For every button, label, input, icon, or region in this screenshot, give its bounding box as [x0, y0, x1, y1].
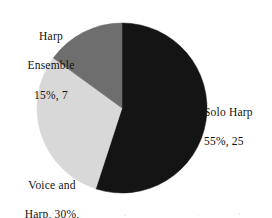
pie-label-voice-and-harp-line1: Voice and [6, 178, 98, 193]
pie-label-solo-harp-line2: 55%, 25 [204, 134, 272, 149]
scan-speckle-artifact [0, 210, 272, 218]
pie-label-harp-ensemble-line3: 15%, 7 [8, 88, 94, 103]
pie-label-solo-harp-line1: Solo Harp [204, 105, 272, 120]
pie-label-harp-ensemble-line2: Ensemble [8, 58, 94, 73]
pie-label-harp-ensemble: Harp Ensemble 15%, 7 [8, 14, 94, 117]
pie-chart-figure: Harp Ensemble 15%, 7 Solo Harp 55%, 25 V… [0, 0, 272, 218]
pie-label-solo-harp: Solo Harp 55%, 25 [204, 90, 272, 164]
pie-label-harp-ensemble-line1: Harp [8, 29, 94, 44]
